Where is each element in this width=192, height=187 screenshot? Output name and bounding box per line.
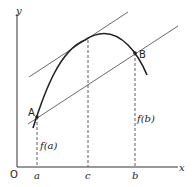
x-axis-label: x — [179, 163, 185, 173]
origin-label: O — [10, 170, 18, 180]
y-axis-label: y — [16, 6, 22, 16]
point-b-dot — [133, 51, 137, 55]
tick-label-a: a — [34, 171, 40, 181]
curve — [33, 34, 147, 128]
f-b-label: f(b) — [137, 114, 155, 124]
point-a-label: A — [28, 108, 35, 118]
tangent-line — [29, 12, 128, 77]
tick-label-b: b — [132, 171, 138, 181]
secant-line — [28, 26, 178, 124]
mvt-diagram: y x O a c b A B f(a) f(b) — [0, 0, 192, 187]
diagram-canvas — [0, 0, 192, 187]
f-a-label: f(a) — [40, 141, 57, 151]
point-a-dot — [35, 115, 39, 119]
tick-label-c: c — [85, 171, 91, 181]
point-b-label: B — [139, 50, 146, 60]
